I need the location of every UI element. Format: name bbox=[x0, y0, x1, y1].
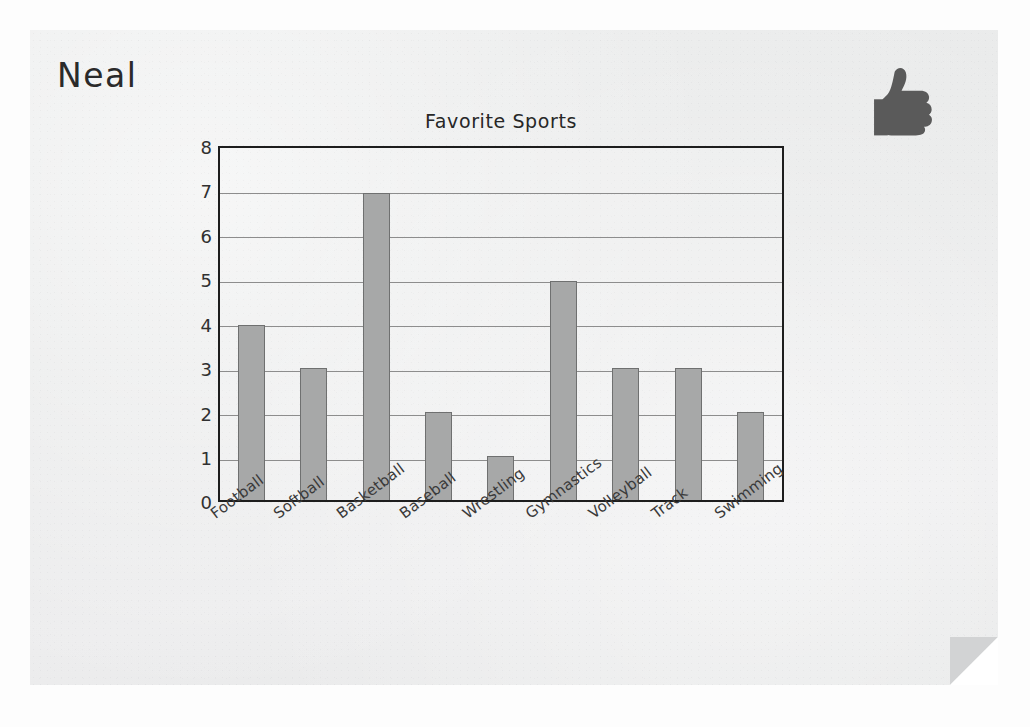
y-axis-tick-6: 6 bbox=[182, 226, 212, 247]
bar-slot bbox=[470, 148, 532, 500]
bar-track bbox=[675, 368, 702, 500]
bar-slot bbox=[657, 148, 719, 500]
scanned-worksheet-page: Neal Favorite Sports 8 7 6 5 4 3 2 1 0 bbox=[0, 0, 1030, 727]
bar-slot bbox=[282, 148, 344, 500]
bar-gymnastics bbox=[550, 281, 577, 500]
y-axis-tick-4: 4 bbox=[182, 315, 212, 336]
bars-layer bbox=[220, 148, 782, 500]
bar-slot bbox=[345, 148, 407, 500]
chart-title: Favorite Sports bbox=[218, 110, 784, 132]
y-axis-tick-1: 1 bbox=[182, 448, 212, 469]
y-axis-tick-8: 8 bbox=[182, 137, 212, 158]
plot-area bbox=[218, 146, 784, 502]
page-fold-cut bbox=[950, 637, 998, 685]
thumbs-up-icon bbox=[862, 58, 948, 144]
y-axis-tick-7: 7 bbox=[182, 181, 212, 202]
bar-slot bbox=[720, 148, 782, 500]
y-axis-tick-3: 3 bbox=[182, 359, 212, 380]
y-axis-tick-5: 5 bbox=[182, 270, 212, 291]
bar-slot bbox=[407, 148, 469, 500]
bar-slot bbox=[532, 148, 594, 500]
bar-slot bbox=[220, 148, 282, 500]
bar-slot bbox=[595, 148, 657, 500]
student-name: Neal bbox=[57, 56, 137, 95]
y-axis-tick-2: 2 bbox=[182, 404, 212, 425]
bar-basketball bbox=[363, 193, 390, 500]
